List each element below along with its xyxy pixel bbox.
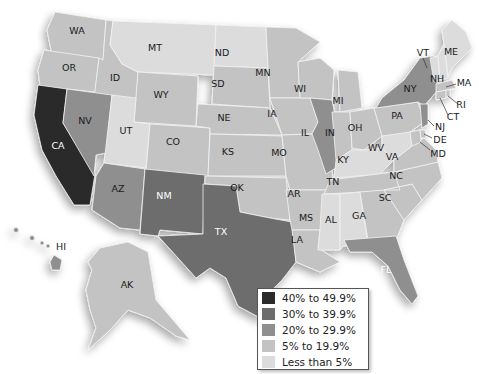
state-HI-islands[interactable] xyxy=(46,244,50,248)
legend-swatch xyxy=(262,324,275,336)
us-choropleth-map: WA OR CA ID NV MT WY UT AZ CO NM ND SD N… xyxy=(0,0,479,374)
label-AK: AK xyxy=(121,279,134,290)
label-GA: GA xyxy=(352,210,366,221)
label-AZ: AZ xyxy=(111,183,124,194)
label-MS: MS xyxy=(299,212,313,223)
legend-label: 5% to 19.9% xyxy=(282,340,349,352)
label-KY: KY xyxy=(337,154,349,165)
label-AR: AR xyxy=(287,188,300,199)
label-NC: NC xyxy=(389,170,403,181)
label-OK: OK xyxy=(230,182,244,193)
state-NM[interactable] xyxy=(140,169,205,236)
state-HI-islands[interactable] xyxy=(14,228,19,233)
label-HI: HI xyxy=(56,241,66,252)
label-NE: NE xyxy=(217,112,230,123)
label-VT: VT xyxy=(417,47,429,58)
legend-swatch xyxy=(262,356,275,368)
legend-label: 40% to 49.9% xyxy=(282,292,356,304)
label-CA: CA xyxy=(51,140,65,151)
label-TN: TN xyxy=(326,176,340,187)
label-UT: UT xyxy=(120,125,133,136)
state-MI[interactable] xyxy=(338,70,362,112)
legend-swatch xyxy=(262,340,275,352)
label-MI: MI xyxy=(333,95,344,106)
label-SD: SD xyxy=(211,78,224,89)
label-NV: NV xyxy=(78,115,92,126)
label-AL: AL xyxy=(325,214,337,225)
label-KS: KS xyxy=(222,146,234,157)
label-NM: NM xyxy=(156,190,171,201)
label-IL: IL xyxy=(301,127,310,138)
legend-item: 30% to 39.9% xyxy=(262,306,368,321)
legend-item: 40% to 49.9% xyxy=(262,290,368,305)
label-NY: NY xyxy=(404,83,417,94)
label-MT: MT xyxy=(148,42,162,53)
label-IA: IA xyxy=(267,108,277,119)
state-AZ[interactable] xyxy=(92,163,145,230)
state-HI-islands[interactable] xyxy=(40,241,44,245)
label-WA: WA xyxy=(69,25,85,36)
label-NJ: NJ xyxy=(435,121,445,132)
legend-swatch xyxy=(262,292,275,304)
legend-label: Less than 5% xyxy=(282,356,352,368)
label-ID: ID xyxy=(110,72,120,83)
state-HI-big[interactable] xyxy=(50,255,62,270)
label-WY: WY xyxy=(153,89,168,100)
legend-item: Less than 5% xyxy=(262,354,368,369)
label-LA: LA xyxy=(291,234,304,245)
label-OR: OR xyxy=(62,62,76,73)
state-RI[interactable] xyxy=(446,90,450,97)
label-RI: RI xyxy=(456,99,465,110)
legend-swatch xyxy=(262,308,275,320)
legend-item: 5% to 19.9% xyxy=(262,338,368,353)
label-TX: TX xyxy=(214,226,228,237)
label-IN: IN xyxy=(325,127,335,138)
label-CO: CO xyxy=(166,136,180,147)
label-DE: DE xyxy=(433,134,446,145)
state-WI[interactable] xyxy=(298,58,334,100)
state-HI-islands[interactable] xyxy=(30,236,35,241)
label-CT: CT xyxy=(447,111,460,122)
label-WI: WI xyxy=(294,83,306,94)
label-MN: MN xyxy=(255,67,270,78)
label-OH: OH xyxy=(348,122,363,133)
label-WV: WV xyxy=(368,142,384,153)
legend-label: 20% to 29.9% xyxy=(282,324,356,336)
legend-item: 20% to 29.9% xyxy=(262,322,368,337)
label-ME: ME xyxy=(444,46,458,57)
label-FL: FL xyxy=(381,264,392,275)
label-NH: NH xyxy=(430,73,444,84)
label-PA: PA xyxy=(391,110,403,121)
legend-label: 30% to 39.9% xyxy=(282,308,356,320)
state-AK[interactable] xyxy=(86,242,190,350)
leader-NJ xyxy=(428,120,434,126)
label-MO: MO xyxy=(271,147,287,158)
label-ND: ND xyxy=(215,47,229,58)
label-VA: VA xyxy=(386,151,399,162)
label-SC: SC xyxy=(379,192,392,203)
label-MD: MD xyxy=(430,148,446,159)
label-MA: MA xyxy=(457,77,472,88)
map-legend: 40% to 49.9% 30% to 39.9% 20% to 29.9% 5… xyxy=(257,288,369,370)
